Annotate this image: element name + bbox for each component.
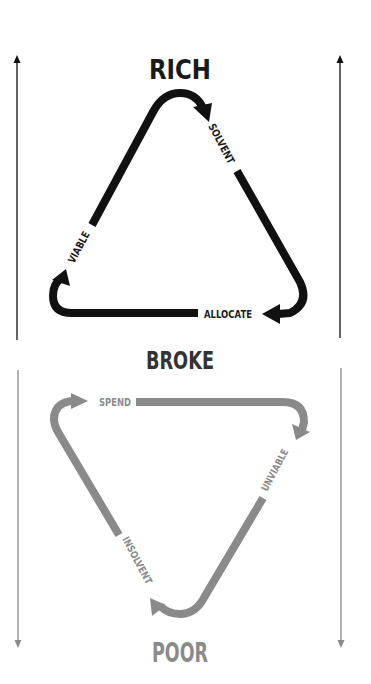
label-solvent: SOLVENT xyxy=(206,121,238,166)
arrowhead-right-icon xyxy=(193,103,212,122)
arrowhead-down-icon xyxy=(338,640,345,648)
top-cycle-left-segment xyxy=(92,93,203,225)
bottom-cycle xyxy=(54,401,304,614)
bottom-cycle-top-segment xyxy=(136,402,304,430)
arrowhead-up-icon xyxy=(14,55,21,63)
arrowhead-down-icon xyxy=(15,640,22,648)
label-allocate: ALLOCATE xyxy=(204,308,252,320)
top-cycle-right-segment xyxy=(237,171,303,314)
arrowhead-right-icon xyxy=(71,393,88,409)
arrowhead-left-icon xyxy=(262,304,280,324)
label-viable: VIABLE xyxy=(65,229,92,265)
top-cycle-bottom-segment xyxy=(53,278,198,313)
top-cycle xyxy=(53,93,303,314)
left-up-arrow xyxy=(14,55,21,340)
label-insolvent: INSOLVENT xyxy=(120,535,154,586)
right-down-arrow xyxy=(338,368,345,648)
bottom-cycle-right-segment xyxy=(160,498,263,614)
label-spend: SPEND xyxy=(99,397,131,408)
broke-label: BROKE xyxy=(146,346,214,375)
bottom-cycle-left-segment xyxy=(54,401,119,535)
poor-title: POOR xyxy=(152,637,208,668)
left-down-arrow xyxy=(15,370,22,648)
rich-title: RICH xyxy=(149,55,211,85)
arrowhead-up-icon xyxy=(337,55,344,63)
right-up-arrow xyxy=(337,55,344,338)
label-unviable: UNVIABLE xyxy=(259,447,290,493)
wealth-cycle-diagram: RICH SOLVENT ALLOCATE VIABLE BROKE SPEND… xyxy=(0,0,371,684)
